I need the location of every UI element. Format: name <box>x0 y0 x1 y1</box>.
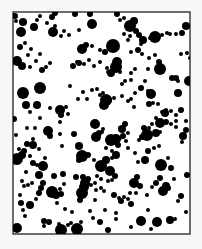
dot <box>169 122 173 126</box>
dot <box>118 126 122 130</box>
dot <box>62 29 66 33</box>
dot <box>58 191 64 197</box>
dot <box>126 197 130 201</box>
dot <box>112 173 118 179</box>
dot <box>141 156 149 164</box>
dot <box>153 180 159 186</box>
dot <box>45 21 49 25</box>
dot <box>133 151 137 155</box>
dot <box>90 88 94 92</box>
dot <box>51 173 57 179</box>
dot <box>166 156 170 160</box>
dot <box>41 218 47 224</box>
dot <box>178 107 184 113</box>
dot <box>140 52 144 56</box>
dot <box>98 60 102 64</box>
dot <box>128 191 132 195</box>
dot <box>38 14 42 18</box>
dot <box>153 53 157 57</box>
dot <box>39 67 45 73</box>
dot <box>168 32 172 36</box>
dot <box>129 225 133 229</box>
dot <box>82 62 86 66</box>
dot <box>16 27 26 37</box>
dot <box>63 207 67 211</box>
dot <box>139 42 143 46</box>
dot <box>123 79 127 83</box>
dot <box>58 187 62 191</box>
dot <box>87 58 91 62</box>
dot <box>146 208 150 212</box>
dot <box>120 82 124 86</box>
dot <box>166 216 174 224</box>
dot <box>20 179 24 183</box>
dot <box>88 209 92 213</box>
dot <box>154 63 166 75</box>
dot <box>68 84 72 88</box>
dot <box>92 64 96 68</box>
dot <box>114 211 118 215</box>
dot <box>104 146 108 150</box>
dot <box>185 80 189 84</box>
dot <box>158 130 162 134</box>
dot <box>101 127 105 131</box>
dot <box>79 220 83 224</box>
dot <box>67 33 71 37</box>
dot <box>14 19 18 23</box>
dot <box>76 97 80 101</box>
dot <box>98 48 102 52</box>
dot <box>150 185 154 189</box>
dot <box>37 147 41 151</box>
dot <box>18 62 26 70</box>
dot <box>53 24 57 28</box>
dot <box>34 197 38 201</box>
dot <box>60 144 64 148</box>
dot <box>126 38 130 42</box>
dot <box>106 179 110 183</box>
dot <box>179 132 187 140</box>
dot <box>129 50 133 54</box>
dot <box>43 156 47 160</box>
dot <box>62 182 66 186</box>
dot <box>149 31 161 43</box>
dot <box>160 110 164 114</box>
dot <box>147 126 151 130</box>
dot <box>135 47 141 53</box>
dot <box>136 216 146 226</box>
dot <box>174 32 178 36</box>
dot <box>122 16 126 20</box>
dot <box>95 87 99 91</box>
dot <box>183 127 189 133</box>
dot <box>85 97 89 101</box>
dot <box>58 132 62 136</box>
dot <box>145 193 149 197</box>
dot <box>165 185 171 191</box>
dot <box>114 217 118 221</box>
dot <box>141 129 153 141</box>
dot <box>73 174 79 180</box>
dot <box>97 219 103 225</box>
dot <box>24 170 28 174</box>
dot <box>146 67 150 71</box>
dot <box>80 174 86 180</box>
dot <box>133 67 137 71</box>
dot <box>28 154 32 158</box>
dot <box>47 133 53 139</box>
dot <box>75 142 83 150</box>
dot <box>128 201 134 207</box>
dot <box>169 109 173 113</box>
dot <box>33 126 37 130</box>
dot <box>48 106 52 110</box>
dot <box>87 19 97 29</box>
dot <box>117 196 121 200</box>
dot <box>17 44 23 50</box>
dot <box>34 82 46 94</box>
dot <box>38 52 42 56</box>
dot <box>21 148 27 154</box>
dot <box>141 125 147 131</box>
dot <box>99 186 103 190</box>
dot <box>48 27 58 37</box>
dot <box>172 177 176 181</box>
dot <box>90 44 94 48</box>
dot <box>92 158 96 162</box>
